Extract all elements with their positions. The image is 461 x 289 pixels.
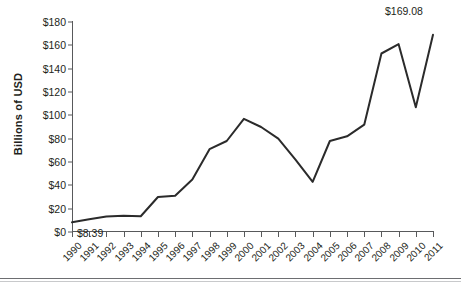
x-axis-tick-mark <box>158 232 159 237</box>
x-axis-tick-mark <box>261 232 262 237</box>
data-series-line <box>72 22 433 232</box>
y-axis-tick-label: $60 <box>48 156 66 168</box>
y-axis-tick-label: $160 <box>43 39 66 51</box>
y-axis-tick-label: $20 <box>48 203 66 215</box>
data-point-value-label: $8.39 <box>77 227 103 239</box>
x-axis-tick-mark <box>433 232 434 237</box>
x-axis-tick-mark <box>192 232 193 237</box>
y-axis-tick-label: $140 <box>43 63 66 75</box>
x-axis-tick-mark <box>416 232 417 237</box>
x-axis-tick-mark <box>227 232 228 237</box>
y-axis-tick-label: $120 <box>43 86 66 98</box>
y-axis-tick-label: $40 <box>48 179 66 191</box>
x-axis-tick-mark <box>313 232 314 237</box>
x-axis-tick-mark <box>141 232 142 237</box>
x-axis-tick-mark <box>72 232 73 237</box>
y-axis-tick-label: $180 <box>43 16 66 28</box>
x-axis-tick-mark <box>124 232 125 237</box>
x-axis-tick-mark <box>399 232 400 237</box>
x-axis-tick-mark <box>347 232 348 237</box>
plot-area: $0$20$40$60$80$100$120$140$160$180 19901… <box>72 22 433 232</box>
line-chart-figure: Billions of USD $0$20$40$60$80$100$120$1… <box>0 0 461 289</box>
x-axis-tick-mark <box>330 232 331 237</box>
x-axis-tick-mark <box>244 232 245 237</box>
x-axis-tick-mark <box>175 232 176 237</box>
x-axis-tick-mark <box>278 232 279 237</box>
x-axis-tick-label: 2011 <box>422 240 445 263</box>
y-axis-tick-label: $0 <box>54 226 66 238</box>
data-point-value-label: $169.08 <box>385 5 423 17</box>
footer-divider-line <box>0 278 461 279</box>
x-axis-tick-mark <box>364 232 365 237</box>
y-axis-title: Billions of USD <box>12 44 24 184</box>
x-axis-tick-mark <box>106 232 107 237</box>
x-axis-tick-mark <box>210 232 211 237</box>
x-axis-tick-mark <box>381 232 382 237</box>
footer-divider-line-secondary <box>0 281 461 282</box>
y-axis-tick-label: $100 <box>43 109 66 121</box>
y-axis-tick-label: $80 <box>48 133 66 145</box>
x-axis-tick-mark <box>295 232 296 237</box>
